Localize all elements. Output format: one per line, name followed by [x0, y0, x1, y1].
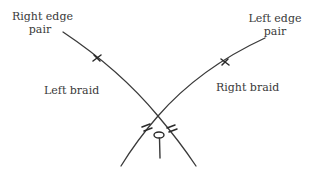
label-right-edge-pair-line1: Right edge	[12, 10, 68, 23]
strand-from-right-edge-pair	[63, 32, 196, 166]
label-left-edge-pair-line1: Left edge	[247, 12, 303, 25]
strand-from-left-edge-pair	[121, 38, 265, 166]
pin-icon	[154, 132, 164, 158]
label-left-edge-pair-line2: pair	[247, 25, 303, 38]
label-left-braid: Left braid	[44, 84, 99, 97]
braid-diagram: Right edge pair Left edge pair Left brai…	[0, 0, 315, 181]
label-right-braid: Right braid	[216, 81, 279, 94]
label-right-edge-pair: Right edge pair	[12, 10, 68, 36]
label-right-edge-pair-line2: pair	[12, 23, 68, 36]
label-left-edge-pair: Left edge pair	[247, 12, 303, 38]
